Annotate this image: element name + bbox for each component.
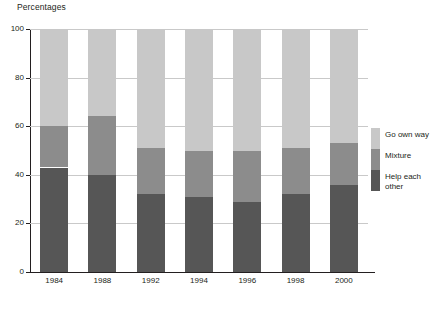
bar-segment — [137, 148, 165, 194]
bar-2000 — [330, 29, 358, 272]
bar-segment — [233, 202, 261, 272]
y-tick-label: 20 — [15, 219, 24, 227]
y-tick-mark — [26, 175, 30, 176]
legend-label: Mixture — [385, 151, 411, 161]
bar-segment — [40, 126, 68, 167]
x-tick-label: 1988 — [82, 277, 122, 285]
y-tick-mark — [26, 126, 30, 127]
bar-1988 — [88, 29, 116, 272]
plot-area — [30, 29, 368, 272]
y-tick-label: 60 — [15, 122, 24, 130]
x-tick-label: 1984 — [34, 277, 74, 285]
x-tick-label: 1996 — [227, 277, 267, 285]
x-tick-label: 2000 — [324, 277, 364, 285]
bar-1998 — [282, 29, 310, 272]
legend-label: Go own way — [385, 130, 429, 140]
y-axis-labels: 020406080100 — [0, 29, 24, 272]
y-tick-mark — [26, 78, 30, 79]
bar-segment — [330, 29, 358, 143]
bar-segment — [185, 197, 213, 272]
y-tick-label: 0 — [20, 268, 24, 276]
bar-segment — [185, 29, 213, 151]
bar-1984 — [40, 29, 68, 272]
legend-swatch — [371, 170, 380, 191]
y-axis-line — [30, 29, 31, 272]
y-tick-label: 40 — [15, 171, 24, 179]
legend-swatch-strip — [371, 128, 380, 191]
bar-1992 — [137, 29, 165, 272]
x-tick-label: 1994 — [179, 277, 219, 285]
legend-swatch — [371, 149, 380, 170]
bar-segment — [233, 29, 261, 151]
bar-segment — [40, 29, 68, 126]
bar-segment — [88, 175, 116, 272]
bar-segment — [330, 185, 358, 272]
bar-segment — [282, 194, 310, 272]
x-tick-label: 1998 — [276, 277, 316, 285]
chart-container: Percentages 020406080100 198419881992199… — [0, 0, 436, 309]
bar-segment — [233, 151, 261, 202]
bar-segment — [137, 194, 165, 272]
bar-segment — [137, 29, 165, 148]
x-axis-labels: 1984198819921994199619982000 — [30, 277, 368, 293]
legend-label: Help each other — [385, 172, 421, 191]
bar-segment — [40, 168, 68, 272]
y-tick-label: 80 — [15, 74, 24, 82]
y-tick-mark — [26, 29, 30, 30]
bar-segment — [88, 116, 116, 174]
bar-segment — [185, 151, 213, 197]
legend-swatch — [371, 128, 380, 149]
legend: Go own wayMixtureHelp each other — [371, 128, 435, 198]
bar-segment — [282, 29, 310, 148]
chart-title: Percentages — [17, 2, 66, 12]
bar-1994 — [185, 29, 213, 272]
bar-segment — [330, 143, 358, 184]
bar-segment — [282, 148, 310, 194]
bar-1996 — [233, 29, 261, 272]
y-tick-mark — [26, 223, 30, 224]
x-axis-line — [30, 272, 375, 273]
y-tick-label: 100 — [11, 25, 24, 33]
x-tick-label: 1992 — [131, 277, 171, 285]
bar-segment — [88, 29, 116, 116]
